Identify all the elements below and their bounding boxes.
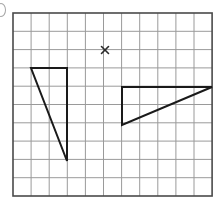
grid-lines xyxy=(13,13,212,196)
figure-root xyxy=(0,0,222,207)
grid-figure-canvas xyxy=(0,0,222,207)
right-triangle xyxy=(122,87,212,125)
